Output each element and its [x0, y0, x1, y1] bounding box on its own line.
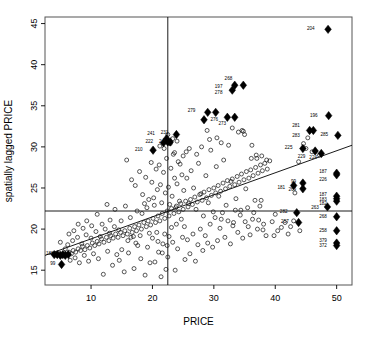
data-point-circle: [180, 173, 184, 177]
data-point-circle: [162, 170, 166, 174]
data-point-circle: [170, 194, 174, 198]
data-point-circle: [101, 272, 105, 276]
point-label: 210: [135, 147, 143, 152]
highlighted-points: [51, 25, 341, 269]
data-point-circle: [147, 198, 151, 202]
data-point-circle: [188, 252, 192, 256]
data-point-circle: [234, 197, 238, 201]
data-point-diamond: [300, 185, 307, 193]
data-point-circle: [265, 167, 269, 171]
data-point-circle: [249, 168, 253, 172]
data-point-circle: [112, 225, 116, 229]
point-label: 226: [319, 177, 327, 182]
data-point-diamond: [231, 113, 238, 121]
data-point-circle: [174, 222, 178, 226]
data-point-circle: [73, 256, 77, 260]
data-point-circle: [189, 198, 193, 202]
data-point-circle: [219, 217, 223, 221]
data-point-circle: [235, 174, 239, 178]
data-point-circle: [106, 249, 110, 253]
data-point-circle: [238, 213, 242, 217]
data-point-circle: [306, 136, 310, 140]
data-point-diamond: [212, 108, 219, 116]
data-point-circle: [144, 175, 148, 179]
data-point-circle: [240, 128, 244, 132]
data-point-circle: [72, 229, 76, 233]
data-point-circle: [131, 235, 135, 239]
x-tick-label: 30: [209, 293, 219, 303]
data-point-circle: [155, 188, 159, 192]
point-label: 276: [210, 117, 218, 122]
data-point-circle: [198, 227, 202, 231]
data-point-circle: [173, 268, 177, 272]
data-point-circle: [122, 270, 126, 274]
data-point-circle: [139, 227, 143, 231]
data-point-circle: [146, 219, 150, 223]
data-point-circle: [279, 225, 283, 229]
data-point-circle: [215, 136, 219, 140]
data-point-circle: [249, 156, 253, 160]
data-point-circle: [201, 248, 205, 252]
data-point-circle: [195, 152, 199, 156]
point-label: 269: [288, 187, 296, 192]
y-axis-title: spatially lagged PRICE: [3, 100, 14, 203]
data-point-circle: [143, 273, 147, 277]
point-label: 268: [319, 214, 327, 219]
data-point-circle: [85, 219, 89, 223]
point-label: 263: [311, 205, 319, 210]
data-point-circle: [158, 183, 162, 187]
data-point-circle: [189, 169, 193, 173]
data-point-circle: [111, 263, 115, 267]
data-point-circle: [142, 202, 146, 206]
data-point-circle: [133, 225, 137, 229]
data-point-circle: [85, 244, 89, 248]
data-point-circle: [127, 251, 131, 255]
data-point-circle: [207, 188, 211, 192]
data-point-diamond: [318, 149, 325, 157]
data-point-circle: [227, 143, 231, 147]
data-point-circle: [239, 208, 243, 212]
data-point-circle: [128, 216, 132, 220]
point-label: 278: [215, 90, 223, 95]
data-point-circle: [95, 212, 99, 216]
data-point-circle: [156, 239, 160, 243]
point-label: 268: [225, 76, 233, 81]
data-point-circle: [204, 174, 208, 178]
data-point-circle: [163, 191, 167, 195]
data-point-circle: [237, 180, 241, 184]
data-point-circle: [261, 228, 265, 232]
data-point-diamond: [310, 126, 317, 134]
data-point-circle: [223, 235, 227, 239]
data-point-circle: [192, 186, 196, 190]
data-point-circle: [76, 235, 80, 239]
data-point-circle: [184, 150, 188, 154]
point-label: 222: [145, 139, 153, 144]
data-point-circle: [138, 234, 142, 238]
point-label: 258: [319, 228, 327, 233]
point-label: 224: [309, 155, 317, 160]
data-point-circle: [87, 259, 91, 263]
data-point-circle: [193, 259, 197, 263]
data-point-circle: [108, 218, 112, 222]
data-point-circle: [163, 232, 167, 236]
data-point-circle: [130, 230, 134, 234]
data-point-circle: [264, 234, 268, 238]
data-point-circle: [176, 247, 180, 251]
data-point-diamond: [293, 208, 300, 216]
data-point-circle: [105, 202, 109, 206]
data-point-circle: [182, 188, 186, 192]
point-label: 257: [281, 219, 289, 224]
data-point-circle: [246, 225, 250, 229]
y-tick-label: 35: [29, 101, 39, 111]
data-point-circle: [128, 226, 132, 230]
data-point-circle: [175, 182, 179, 186]
y-tick-label: 15: [29, 265, 39, 275]
data-point-circle: [216, 184, 220, 188]
data-point-circle: [161, 242, 165, 246]
data-point-circle: [172, 211, 176, 215]
data-point-circle: [171, 240, 175, 244]
point-label: 204: [307, 26, 315, 31]
data-point-circle: [109, 234, 113, 238]
data-point-circle: [139, 257, 143, 261]
data-point-circle: [125, 158, 129, 162]
